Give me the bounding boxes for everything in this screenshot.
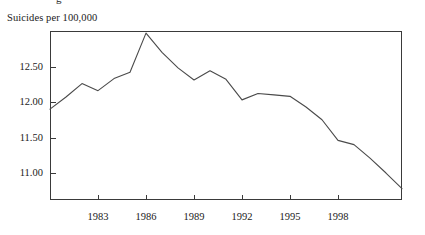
x-tick-label: 1983 — [78, 211, 118, 222]
x-tick-label: 1998 — [318, 211, 358, 222]
x-tick-mark — [290, 195, 291, 200]
x-tick-mark — [242, 195, 243, 200]
y-tick-mark — [51, 102, 56, 103]
y-tick-mark — [51, 173, 56, 174]
y-tick-mark — [51, 67, 56, 68]
x-tick-mark — [146, 195, 147, 200]
y-axis-title: Suicides per 100,000 — [7, 11, 97, 24]
y-tick-label: 12.50 — [3, 61, 43, 72]
x-tick-mark — [338, 195, 339, 200]
line-series-suicides-per-100000 — [50, 31, 402, 200]
x-tick-label: 1989 — [174, 211, 214, 222]
y-tick-label: 11.50 — [3, 132, 43, 143]
x-tick-label: 1992 — [222, 211, 262, 222]
y-tick-label: 11.00 — [3, 167, 43, 178]
clipped-text-above: g — [56, 0, 70, 4]
figure-panel: g Suicides per 100,000 11.0011.5012.0012… — [0, 0, 425, 235]
y-tick-label: 12.00 — [3, 96, 43, 107]
plot-area — [50, 31, 402, 200]
y-tick-mark — [51, 138, 56, 139]
x-tick-label: 1986 — [126, 211, 166, 222]
x-tick-label: 1995 — [270, 211, 310, 222]
x-tick-mark — [194, 195, 195, 200]
x-tick-mark — [98, 195, 99, 200]
